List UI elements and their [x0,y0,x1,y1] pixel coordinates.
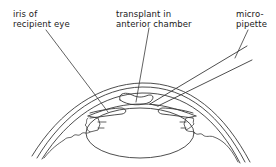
lens [86,108,194,158]
ciliary-wavy-left [44,132,90,158]
eye-diagram [0,0,276,167]
iris-leader-line [46,30,108,112]
micropipette-upper-edge [150,46,247,104]
transplant-leader-line [136,28,149,102]
micropipette-lower-edge [158,60,252,106]
ciliary-body-left [85,116,100,132]
cornea-inner-arc [42,93,240,163]
pipette-leader-line [235,30,248,58]
